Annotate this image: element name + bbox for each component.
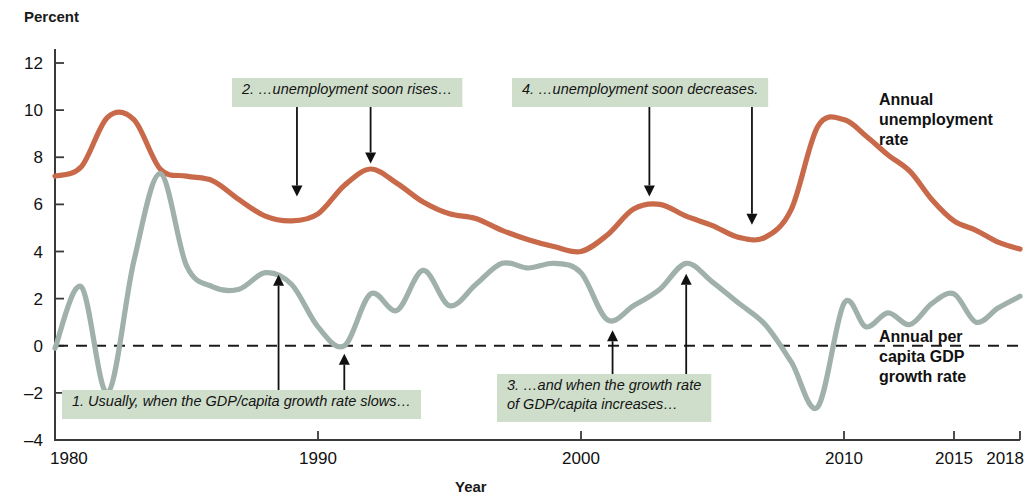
y-tick-label: 2 [34, 290, 43, 309]
x-tick-label: 1980 [50, 449, 88, 468]
series-label-gdp-line1: Annual per [879, 328, 963, 345]
series-label-unemployment-line2: unemployment [879, 111, 993, 128]
x-tick-labels: 198019902000201020152018 [50, 449, 1024, 468]
y-tick-label: –2 [24, 384, 43, 403]
y-tick-label: 4 [34, 243, 43, 262]
series-label-unemployment-line3: rate [879, 131, 908, 148]
line-chart-canvas: Percent 121086420–2–4 198019902000201020… [0, 0, 1032, 502]
annotation-text-3: of GDP/capita increases… [507, 396, 678, 412]
series-label-gdp-line3: growth rate [879, 368, 966, 385]
annotation-arrowhead [644, 185, 655, 196]
annotation-arrowhead [339, 354, 350, 365]
series-label-unemployment-line1: Annual [879, 91, 933, 108]
x-tick-label: 2000 [562, 449, 600, 468]
annotation-arrowhead [746, 214, 757, 225]
annotation-text-3: 3. …and when the growth rate [507, 377, 701, 393]
series-label-gdp-line2: capita GDP [879, 348, 965, 365]
x-tick-label: 2010 [825, 449, 863, 468]
y-tick-label: 12 [24, 54, 43, 73]
series-line [55, 174, 1020, 409]
y-tick-label: 0 [34, 337, 43, 356]
x-axis-title: Year [455, 478, 487, 495]
series-label-gdp: Annual per capita GDP growth rate [879, 328, 966, 385]
annotation-arrowhead [365, 152, 376, 163]
series-line [55, 112, 1020, 252]
annotations-group: 2. …unemployment soon rises…4. …unemploy… [62, 78, 768, 422]
y-tick-label: 6 [34, 195, 43, 214]
y-tick-label: 8 [34, 148, 43, 167]
annotation-arrowhead [291, 185, 302, 196]
y-tick-labels: 121086420–2–4 [24, 54, 43, 450]
annotation-text-4: 4. …unemployment soon decreases. [522, 81, 758, 97]
annotation-arrowhead [681, 274, 692, 285]
series-label-unemployment: Annual unemployment rate [879, 91, 993, 148]
data-series-group [55, 112, 1020, 408]
chart-figure: Percent 121086420–2–4 198019902000201020… [0, 0, 1032, 502]
x-tick-label: 1990 [299, 449, 337, 468]
annotation-text-1: 1. Usually, when the GDP/capita growth r… [72, 393, 411, 409]
x-tick-label: 2015 [935, 449, 973, 468]
annotation-text-2: 2. …unemployment soon rises… [241, 81, 452, 97]
y-axis-title: Percent [24, 8, 79, 25]
annotation-arrowhead [607, 330, 618, 341]
y-tick-label: –4 [24, 431, 43, 450]
y-tick-label: 10 [24, 101, 43, 120]
x-tick-label: 2018 [986, 449, 1024, 468]
